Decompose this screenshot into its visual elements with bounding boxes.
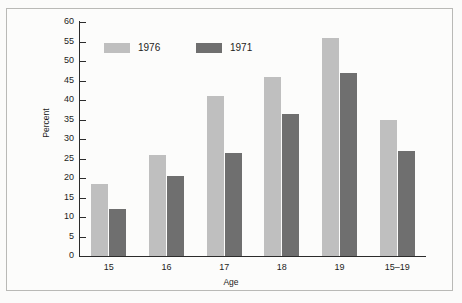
bar-1971-16 (167, 176, 184, 256)
y-axis-tick (80, 81, 86, 82)
y-axis-tick (80, 237, 86, 238)
y-axis-tick (80, 198, 86, 199)
y-axis-tick (80, 159, 86, 160)
x-axis-tick-label-15-19: 15–19 (367, 262, 427, 272)
legend-label-1971: 1971 (230, 42, 252, 54)
y-axis-tick-label: 5 (48, 232, 74, 241)
x-axis-line (79, 256, 426, 257)
bar-1976-18 (264, 77, 281, 256)
y-axis-tick (80, 100, 86, 101)
y-axis-tick-label: 10 (48, 212, 74, 221)
bar-1971-15 (109, 209, 126, 256)
y-axis-tick-label: 50 (48, 56, 74, 65)
legend-swatch-1971 (196, 43, 222, 53)
y-axis-tick (80, 22, 86, 23)
y-axis-tick (80, 61, 86, 62)
y-axis-tick-label: 15 (48, 193, 74, 202)
y-axis-tick-label: 55 (48, 37, 74, 46)
y-axis-tick (80, 217, 86, 218)
y-axis-tick-label: 0 (48, 251, 74, 260)
x-axis-tick-label-15: 15 (79, 262, 139, 272)
bar-1971-19 (340, 73, 357, 256)
y-axis-tick (80, 139, 86, 140)
bar-1976-19 (322, 38, 339, 256)
bar-1971-15–19 (398, 151, 415, 256)
y-axis-tick (80, 178, 86, 179)
y-axis-tick (80, 42, 86, 43)
y-axis-tick-label: 60 (48, 17, 74, 26)
chart-figure: 051015202530354045505560 Percent 1516171… (0, 0, 462, 303)
bar-1976-15–19 (380, 120, 397, 257)
y-axis-tick-label: 35 (48, 115, 74, 124)
y-axis-tick-label: 45 (48, 76, 74, 85)
x-axis-tick-label-16: 16 (137, 262, 197, 272)
x-axis-title: Age (0, 277, 462, 287)
y-axis-tick (80, 120, 86, 121)
y-axis-tick-label: 30 (48, 134, 74, 143)
bar-1976-16 (149, 155, 166, 256)
legend-swatch-1976 (104, 43, 130, 53)
legend-label-1976: 1976 (138, 42, 160, 54)
x-axis-tick-label-17: 17 (194, 262, 254, 272)
bar-1971-17 (225, 153, 242, 256)
y-axis-tick-label: 20 (48, 173, 74, 182)
x-axis-tick-label-18: 18 (252, 262, 312, 272)
y-axis-tick-label: 40 (48, 95, 74, 104)
y-axis-tick (80, 256, 86, 257)
bar-1976-17 (207, 96, 224, 256)
bar-1976-15 (91, 184, 108, 256)
y-axis-tick-label: 25 (48, 154, 74, 163)
bar-1971-18 (282, 114, 299, 256)
y-axis-title: Percent (41, 108, 51, 137)
x-axis-tick-label-19: 19 (310, 262, 370, 272)
